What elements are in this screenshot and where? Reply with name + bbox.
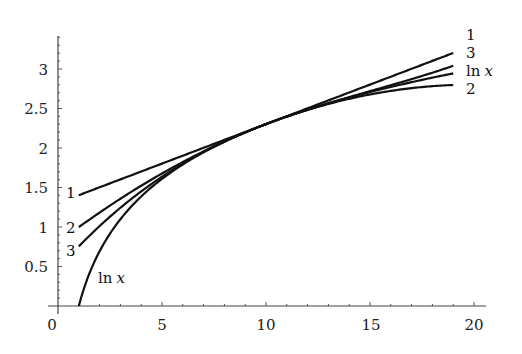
left-label-series-2: 2 xyxy=(66,219,76,237)
y-tick-label-2: 2 xyxy=(38,140,48,158)
left-label-lnx: lnx xyxy=(98,269,125,287)
x-tick-label-5: 5 xyxy=(157,316,167,334)
plot-curves xyxy=(79,53,453,306)
y-tick-label-3: 3 xyxy=(38,61,48,79)
right-label-series-2: 2 xyxy=(466,80,476,98)
chart: 0 5 10 15 20 0.5 1 1.5 2 2.5 3 1 2 3 lnx… xyxy=(0,0,522,354)
x-tick-label-20: 20 xyxy=(464,316,483,334)
left-label-series-1: 1 xyxy=(66,184,76,202)
y-tick-label-2.5: 2.5 xyxy=(24,100,48,118)
y-tick-label-1.5: 1.5 xyxy=(24,179,48,197)
right-label-series-1: 1 xyxy=(466,26,476,44)
right-label-lnx: lnx xyxy=(466,62,493,80)
x-tick-label-15: 15 xyxy=(361,316,380,334)
x-tick-label-0: 0 xyxy=(47,316,57,334)
x-tick-label-10: 10 xyxy=(256,316,275,334)
y-tick-label-1: 1 xyxy=(38,219,48,237)
left-label-series-3: 3 xyxy=(66,242,76,260)
curve-2 xyxy=(79,85,453,227)
right-label-series-3: 3 xyxy=(466,44,476,62)
y-tick-label-0.5: 0.5 xyxy=(24,258,48,276)
curve-3 xyxy=(79,66,453,247)
